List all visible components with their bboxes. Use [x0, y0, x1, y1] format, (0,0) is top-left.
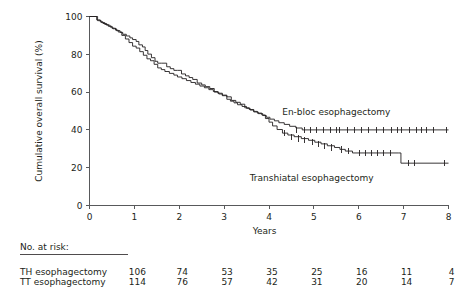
risk-value: 31: [311, 277, 322, 287]
x-axis-title: Years: [252, 226, 277, 236]
x-tick-label-1: 1: [132, 212, 138, 222]
y-axis: 020406080100: [65, 12, 89, 211]
y-tick-label-40: 40: [71, 125, 83, 135]
y-tick-label-20: 20: [71, 163, 83, 173]
x-tick-label-3: 3: [221, 212, 227, 222]
risk-value: 14: [401, 277, 413, 287]
risk-row-label-1: TT esophagectomy: [19, 277, 106, 287]
x-tick-label-8: 8: [446, 212, 452, 222]
axis-titles: Cumulative overall survival (%)Years: [34, 40, 277, 235]
risk-value: 20: [356, 277, 368, 287]
risk-value: 7: [449, 277, 455, 287]
risk-table-title: No. at risk:: [20, 242, 69, 252]
risk-value: 57: [221, 277, 232, 287]
x-axis: 012345678: [87, 206, 452, 222]
risk-value: 106: [129, 267, 146, 277]
x-tick-label-2: 2: [176, 212, 182, 222]
kaplan-meier-chart: 020406080100 012345678 En-bloc esophagec…: [0, 0, 464, 300]
y-axis-title: Cumulative overall survival (%): [34, 40, 44, 181]
risk-row-label-0: TH esophagectomy: [19, 267, 108, 277]
risk-value: 42: [266, 277, 277, 287]
risk-value: 74: [177, 267, 189, 277]
risk-value: 35: [266, 267, 277, 277]
series-label-1: Transhiatal esophagectomy: [249, 173, 375, 183]
x-tick-label-4: 4: [266, 212, 272, 222]
risk-value: 76: [177, 277, 189, 287]
risk-value: 16: [356, 267, 368, 277]
risk-value: 53: [221, 267, 232, 277]
censor-marks: [284, 127, 446, 167]
y-tick-label-100: 100: [65, 12, 82, 22]
survival-chart-figure: 020406080100 012345678 En-bloc esophagec…: [0, 0, 464, 300]
risk-value: 11: [401, 267, 412, 277]
x-tick-label-0: 0: [87, 212, 93, 222]
risk-value: 114: [129, 277, 146, 287]
risk-table: No. at risk:TH esophagectomy106745335251…: [19, 242, 455, 287]
y-tick-label-80: 80: [71, 50, 83, 60]
risk-value: 4: [449, 267, 455, 277]
y-tick-label-0: 0: [77, 201, 83, 211]
survival-curve-0: [90, 17, 449, 130]
survival-curves: [90, 17, 449, 164]
x-tick-label-5: 5: [311, 212, 317, 222]
risk-value: 25: [311, 267, 322, 277]
survival-curve-1: [90, 17, 449, 164]
series-label-0: En-bloc esophagectomy: [282, 107, 391, 117]
x-tick-label-6: 6: [356, 212, 362, 222]
x-tick-label-7: 7: [401, 212, 407, 222]
y-tick-label-60: 60: [71, 87, 83, 97]
